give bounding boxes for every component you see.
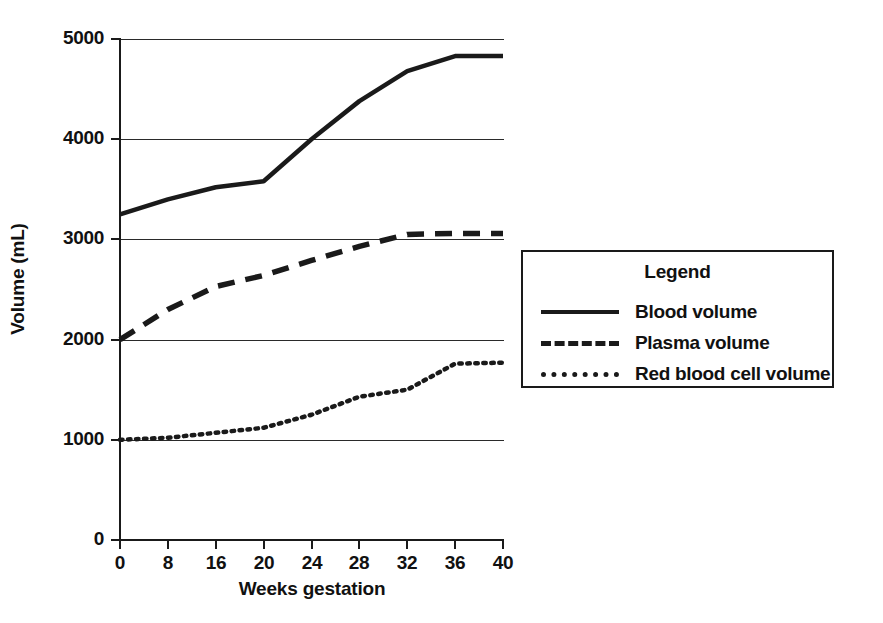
x-axis-tick (406, 540, 408, 549)
legend-entries: Blood volumePlasma volumeRed blood cell … (523, 296, 832, 389)
x-axis-tick-label: 36 (445, 552, 466, 574)
series-line-red-blood-cell-volume (120, 363, 503, 440)
legend-swatch-dashed-line-icon (541, 336, 619, 350)
x-axis-tick (358, 540, 360, 549)
legend-entry[interactable]: Red blood cell volume (523, 358, 832, 389)
x-axis-tick (502, 540, 504, 549)
y-axis-tick-label: 1000 (28, 428, 104, 450)
legend-entry[interactable]: Blood volume (523, 296, 832, 327)
legend-entry[interactable]: Plasma volume (523, 327, 832, 358)
y-axis-line (119, 39, 121, 541)
x-axis-title: Weeks gestation (120, 578, 504, 600)
y-axis-title: Volume (mL) (7, 199, 29, 359)
x-axis-tick (311, 540, 313, 549)
x-axis-tick-label: 16 (206, 552, 227, 574)
chart-figure: Volume (mL) 010002000300040005000 081620… (0, 0, 883, 623)
x-axis-tick-label: 24 (302, 552, 323, 574)
x-axis-tick-label: 20 (254, 552, 275, 574)
legend-title: Legend (523, 261, 832, 283)
x-axis-tick-label: 28 (349, 552, 370, 574)
x-axis-tick-label: 0 (115, 552, 125, 574)
series-line-blood-volume (120, 56, 503, 214)
x-axis-tick (167, 540, 169, 549)
x-axis-tick (119, 540, 121, 549)
x-axis-tick (454, 540, 456, 549)
series-line-plasma-volume (120, 233, 503, 339)
legend-entry-label: Red blood cell volume (635, 363, 830, 385)
x-axis-line (120, 539, 504, 541)
x-axis-tick-label: 8 (163, 552, 173, 574)
y-axis-tick-label: 0 (28, 528, 104, 550)
x-axis-tick (215, 540, 217, 549)
x-axis-tick-label: 40 (493, 552, 514, 574)
y-axis-tick-label: 5000 (28, 27, 104, 49)
gridline (120, 139, 504, 140)
legend-entry-label: Blood volume (635, 301, 757, 323)
gridline (120, 239, 504, 240)
y-axis-tick-label: 3000 (28, 227, 104, 249)
gridline (120, 39, 504, 40)
legend-swatch-dotted-line-icon (541, 367, 619, 381)
legend-entry-label: Plasma volume (635, 332, 769, 354)
y-axis-tick-label: 2000 (28, 328, 104, 350)
x-axis-tick (263, 540, 265, 549)
legend-swatch-solid-line-icon (541, 305, 619, 319)
legend-box: Legend Blood volumePlasma volumeRed bloo… (521, 250, 834, 388)
x-axis-tick-label: 32 (397, 552, 418, 574)
gridline (120, 440, 504, 441)
y-axis-tick-label: 4000 (28, 127, 104, 149)
gridline (120, 340, 504, 341)
